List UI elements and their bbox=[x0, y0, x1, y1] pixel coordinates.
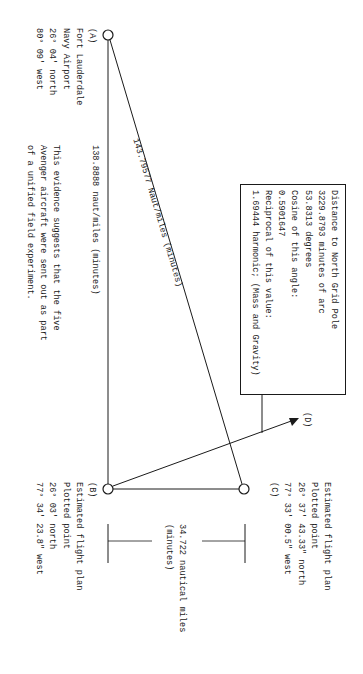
point-c-label: (C) bbox=[267, 482, 280, 590]
edge-bc-label-line-2: (minutes) bbox=[162, 524, 175, 632]
point-b-line-4: 77° 34' 23.8" west bbox=[32, 482, 45, 590]
note-line-1: Distance to North Grid Pole bbox=[327, 190, 340, 376]
edge-bc-label-block: 34.722 nautical miles (minutes) bbox=[162, 524, 188, 632]
evidence-note-block: This evidence suggests that the five Ave… bbox=[22, 145, 62, 341]
evidence-note-line-2: Avenger aircraft were sent out as part bbox=[36, 145, 49, 341]
point-c-line-3: 26° 37' 43.33" north bbox=[293, 482, 306, 590]
point-a-label: (A) bbox=[85, 28, 98, 105]
point-a-circle-icon bbox=[103, 30, 113, 40]
edge-ab-label-block: 138.8888 naut/miles (minutes) bbox=[88, 145, 101, 295]
edge-ab-label: 138.8888 naut/miles (minutes) bbox=[88, 145, 101, 295]
point-b-line-3: 26° 03' north bbox=[45, 482, 58, 590]
point-b-label: (B) bbox=[85, 482, 98, 590]
point-a-label-block: (A) Fort Lauderdale Navy Airport 26° 04'… bbox=[32, 28, 98, 105]
point-a-line-1: Fort Lauderdale bbox=[72, 28, 85, 105]
point-a-line-2: Navy Airport bbox=[58, 28, 71, 105]
point-b-line-2: Plotted point bbox=[58, 482, 71, 590]
point-b-circle-icon bbox=[103, 484, 113, 494]
edge-bd-arrow-line bbox=[113, 420, 294, 486]
arrowhead-icon bbox=[289, 418, 299, 426]
point-b-line-1: Estimated flight plan bbox=[72, 482, 85, 590]
point-c-label-block: Estimated flight plan Plotted point 26° … bbox=[267, 482, 333, 590]
note-line-5: 0.5901647 bbox=[274, 190, 287, 376]
note-line-6: Reciprocal of this value: bbox=[261, 190, 274, 376]
note-line-4: Cosine of this angle: bbox=[287, 190, 300, 376]
edge-bc-label-line-1: 34.722 nautical miles bbox=[175, 524, 188, 632]
point-b-label-block: (B) Estimated flight plan Plotted point … bbox=[32, 482, 98, 590]
note-box-text: Distance to North Grid Pole 3229.8793 mi… bbox=[248, 190, 340, 376]
evidence-note-line-3: of a unified field experiment. bbox=[22, 145, 35, 341]
point-a-line-4: 80° 09' west bbox=[32, 28, 45, 105]
point-c-circle-icon bbox=[239, 484, 249, 494]
point-a-line-3: 26° 04' north bbox=[45, 28, 58, 105]
point-c-line-2: Plotted point bbox=[307, 482, 320, 590]
note-line-2: 3229.8793 minutes of arc bbox=[314, 190, 327, 376]
point-d-label: (D) bbox=[300, 412, 313, 427]
point-c-line-1: Estimated flight plan bbox=[320, 482, 333, 590]
note-line-7: 1.69444 harmonic; (Mass and Gravity) bbox=[248, 190, 261, 376]
point-c-line-4: 77° 33' 00.5" west bbox=[280, 482, 293, 590]
evidence-note-line-1: This evidence suggests that the five bbox=[49, 145, 62, 341]
note-line-3: 53.8313 degrees bbox=[300, 190, 313, 376]
point-d-label-block: (D) bbox=[300, 412, 313, 427]
flight-plan-diagram: (A) Fort Lauderdale Navy Airport 26° 04'… bbox=[0, 0, 363, 674]
